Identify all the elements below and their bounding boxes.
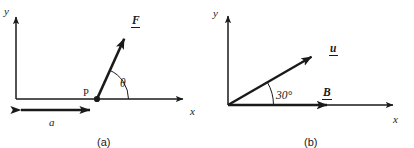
- panel-a-dimension-label: a: [49, 116, 55, 128]
- panel-a-caption: (a): [97, 136, 110, 148]
- panel-a-force-vector-label: F: [131, 14, 140, 26]
- figure-background: [0, 0, 414, 148]
- figure-container: x y θ P F a (a) x y 30°: [0, 0, 414, 148]
- panel-b-u-vector-label: u: [330, 42, 337, 54]
- panel-a-y-axis-label: y: [3, 5, 9, 17]
- panel-b-caption: (b): [304, 136, 317, 148]
- vector-diagram-figure: x y θ P F a (a) x y 30°: [0, 0, 414, 148]
- panel-b-y-axis-label: y: [212, 7, 218, 19]
- panel-b-b-vector-label: B: [322, 86, 331, 98]
- panel-a-point-label: P: [83, 87, 89, 98]
- panel-a-point-marker: [94, 96, 100, 102]
- panel-b-angle-label: 30°: [275, 89, 293, 101]
- panel-b-x-axis-label: x: [392, 113, 398, 125]
- panel-a-x-axis-label: x: [189, 105, 195, 117]
- panel-a-angle-label: θ: [120, 77, 126, 89]
